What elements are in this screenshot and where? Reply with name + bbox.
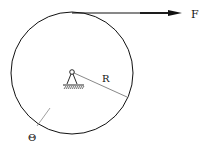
angle-marker-line — [37, 108, 50, 126]
radius-label: R — [102, 73, 110, 84]
force-label: F — [191, 8, 199, 21]
arrowhead-icon — [168, 10, 182, 16]
diagram-canvas: F R Θ — [0, 0, 206, 150]
angle-label: Θ — [28, 132, 36, 143]
pivot-support-icon — [63, 70, 84, 89]
